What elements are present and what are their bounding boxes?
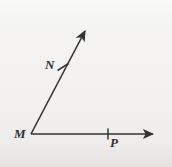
point-label-p: P — [110, 136, 118, 149]
ray-mn — [31, 31, 85, 134]
point-label-n: N — [45, 58, 54, 71]
point-label-m: M — [14, 127, 26, 140]
angle-diagram-svg — [0, 0, 172, 167]
angle-diagram-figure: M N P — [0, 0, 172, 167]
